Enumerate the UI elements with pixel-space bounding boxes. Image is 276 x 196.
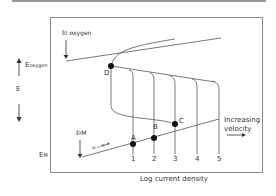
curve-5 (212, 81, 219, 154)
polarization-diagram (0, 0, 276, 196)
oxygen-cathodic-line (111, 66, 215, 82)
point-c-label: C (179, 118, 184, 125)
curve-3 (170, 76, 175, 154)
annotation-line1: Increasing (224, 117, 260, 124)
x-axis-label: Log current density (140, 176, 208, 183)
plot-frame (51, 18, 263, 173)
curve-5-label: 5 (217, 156, 221, 163)
curve-2-label: 2 (152, 156, 156, 163)
curve-4-label: 4 (195, 156, 199, 163)
curve-3-label: 3 (173, 156, 177, 163)
annotation-line2: velocity (224, 126, 251, 133)
e-axis-label: E (16, 86, 20, 93)
curve-2 (150, 73, 154, 154)
e-m-label: EM (39, 152, 48, 159)
point-c (172, 121, 178, 127)
point-a-label: A (131, 135, 136, 142)
curve-4 (192, 79, 197, 154)
e-oxygen-label: Eoxygen (25, 62, 48, 69)
curve-d-to-c (111, 66, 175, 126)
i0-m-label: I0M (76, 130, 86, 137)
point-b (151, 135, 157, 141)
metal-line (82, 119, 219, 157)
point-d-label: D (104, 70, 109, 77)
i0-oxygen-label: I0 oxygen (62, 30, 91, 37)
curve-1-label: 1 (131, 156, 135, 163)
point-b-label: B (153, 124, 158, 131)
oxygen-line (66, 38, 221, 61)
